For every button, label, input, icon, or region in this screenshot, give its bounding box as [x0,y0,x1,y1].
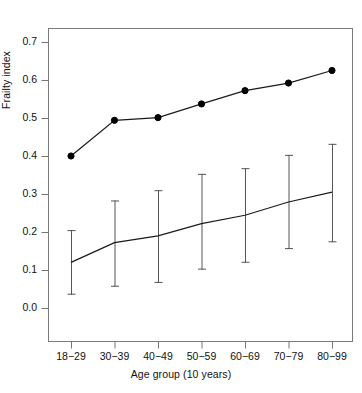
y-tick-label: 0.4 [3,149,37,161]
y-tick-label: 0.1 [3,263,37,275]
data-point-marker [242,88,248,94]
x-tick-label: 80−99 [304,350,360,362]
data-point-marker [285,80,291,86]
upper-series-line [71,71,332,157]
error-bars-group [68,144,337,295]
x-axis-title: Age group (10 years) [0,368,362,380]
y-axis-title: Frailty index [0,20,12,140]
y-tick-marks [42,43,49,309]
plot-area [0,0,362,393]
data-point-marker [155,115,161,121]
data-point-marker [111,117,117,123]
y-tick-label: 0.2 [3,225,37,237]
y-tick-label: 0.3 [3,187,37,199]
data-point-marker [68,153,74,159]
data-point-marker [329,67,335,73]
x-tick-marks [72,342,333,349]
y-tick-label: 0.0 [3,301,37,313]
panel-border [49,29,353,342]
data-point-marker [198,101,204,107]
chart-figure: 0.00.10.20.30.40.50.60.7 18−2930−3940−49… [0,0,362,393]
